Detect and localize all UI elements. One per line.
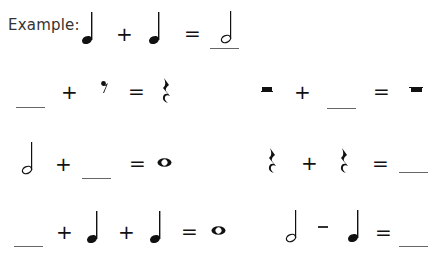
plus-sign: + <box>301 153 318 173</box>
quarter-note-icon <box>87 210 99 244</box>
plus-sign: + <box>118 222 135 242</box>
half-rest-icon <box>261 87 273 92</box>
equals-sign: = <box>128 81 145 101</box>
half-note-icon <box>22 141 34 175</box>
equals-sign: = <box>184 23 201 43</box>
plus-sign: + <box>55 154 72 174</box>
equals-sign: = <box>373 81 390 101</box>
whole-note-icon <box>157 158 172 167</box>
quarter-note-icon <box>149 11 161 45</box>
whole-note-icon <box>211 226 226 235</box>
quarter-rest-icon <box>268 148 277 173</box>
answer-blank[interactable] <box>16 107 45 108</box>
answer-blank[interactable] <box>14 246 43 247</box>
equals-sign: = <box>375 222 392 242</box>
answer-blank[interactable] <box>399 172 428 173</box>
plus-sign: + <box>56 222 73 242</box>
equals-sign: = <box>181 221 198 241</box>
plus-sign: + <box>116 24 133 44</box>
minus-sign <box>318 226 328 228</box>
quarter-note-icon <box>348 209 360 243</box>
half-note-icon <box>286 209 298 243</box>
eighth-rest-icon <box>101 81 109 94</box>
equals-sign: = <box>129 153 146 173</box>
answer-blank[interactable] <box>399 246 428 247</box>
quarter-rest-icon <box>162 78 171 103</box>
quarter-note-icon <box>82 11 94 45</box>
example-answer-underline <box>210 48 239 49</box>
quarter-rest-icon <box>340 148 349 173</box>
quarter-note-icon <box>150 210 162 244</box>
answer-blank[interactable] <box>327 108 356 109</box>
whole-rest-icon <box>409 87 423 93</box>
plus-sign: + <box>294 82 311 102</box>
answer-blank[interactable] <box>82 178 111 179</box>
half-note-icon <box>221 10 233 44</box>
equals-sign: = <box>372 153 389 173</box>
example-label: Example: <box>8 16 80 34</box>
plus-sign: + <box>61 82 78 102</box>
